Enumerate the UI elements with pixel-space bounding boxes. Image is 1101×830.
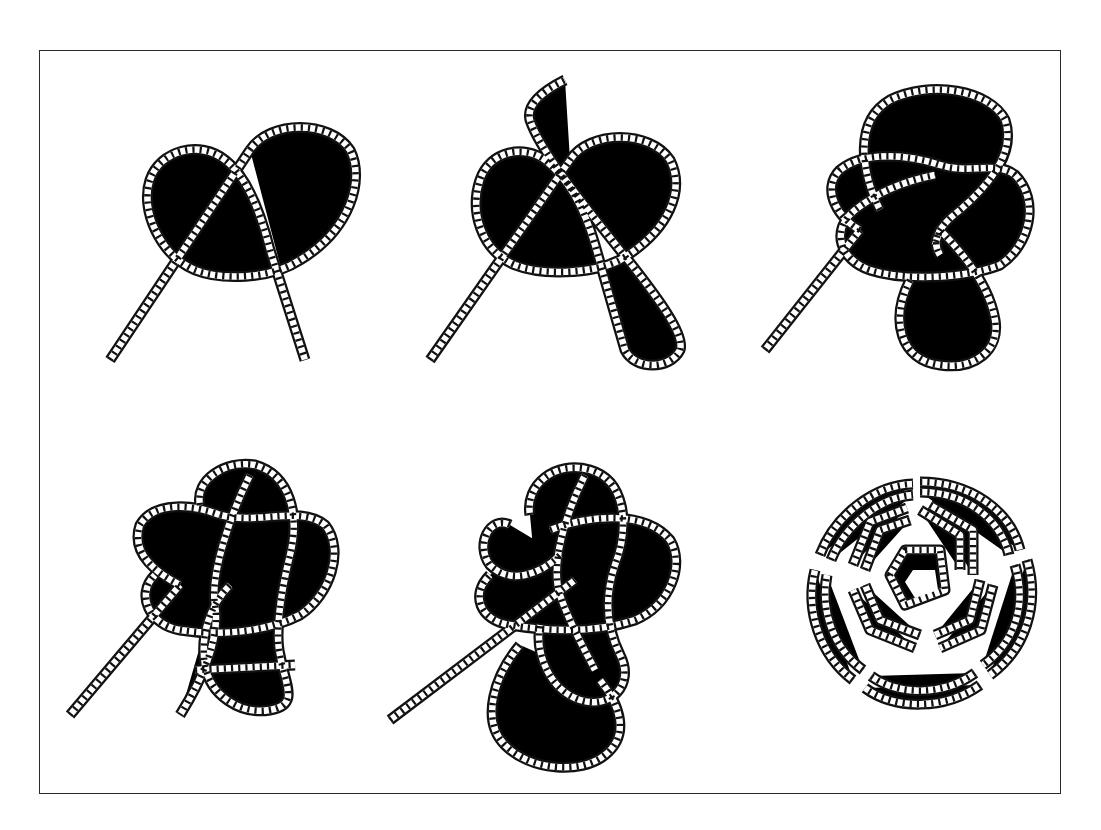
- rope-illustration-step-4: [60, 455, 360, 735]
- rope-illustration-step-1: [100, 110, 380, 380]
- knot-step-2: [420, 80, 720, 380]
- knot-step-4: [60, 455, 360, 735]
- rope-illustration-step-2: [420, 80, 720, 380]
- knot-step-1: [100, 110, 380, 380]
- rope-illustration-step-5: [380, 455, 700, 785]
- rope-illustration-step-3: [760, 80, 1050, 380]
- knot-step-3: [760, 80, 1050, 380]
- knot-step-5: [380, 455, 700, 785]
- knot-step-6: [795, 470, 1045, 720]
- rope-illustration-step-6: [795, 470, 1045, 720]
